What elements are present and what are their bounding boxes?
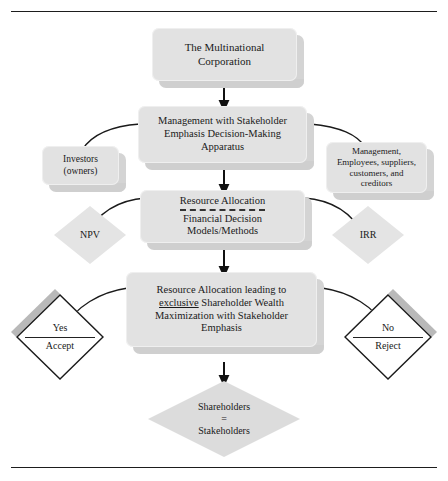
node-resource-allocation: Resource Allocation Financial Decision M…	[140, 190, 312, 250]
corporation-line-2: Corporation	[198, 55, 251, 68]
wealth-line-4: Emphasis	[201, 322, 242, 335]
frame-rule-bottom	[11, 467, 437, 468]
wealth-line-2-rest: Shareholder Wealth	[199, 297, 284, 308]
management-line-1: Management with Stakeholder	[158, 115, 287, 128]
investors-line-1: Investors	[63, 154, 98, 166]
stakeholders-group-line-2: Employees, suppliers,	[337, 157, 416, 168]
node-label: Investors (owners)	[42, 146, 119, 185]
accept-label: Yes Accept	[16, 294, 104, 380]
node-label: Resource Allocation Financial Decision M…	[140, 190, 305, 243]
node-accept-decision: Yes Accept	[16, 294, 104, 380]
shareholders-line-3: Stakeholders	[198, 425, 250, 437]
investors-line-2: (owners)	[64, 166, 98, 178]
node-npv: NPV	[54, 206, 126, 264]
accept-line-1: Yes	[53, 322, 68, 334]
wealth-line-2: exclusive Shareholder Wealth	[159, 297, 284, 310]
node-irr: IRR	[332, 206, 404, 264]
frame-rule-top	[11, 11, 437, 12]
shareholders-line-1: Shareholders	[198, 401, 250, 413]
node-stakeholders-group: Management, Employees, suppliers, custom…	[326, 142, 434, 200]
node-wealth-maximization: Resource Allocation leading to exclusive…	[126, 272, 324, 354]
node-multinational-corporation: The Multinational Corporation	[152, 28, 304, 88]
npv-label: NPV	[54, 206, 126, 264]
node-label: The Multinational Corporation	[152, 28, 297, 81]
node-investors: Investors (owners)	[42, 146, 126, 192]
management-line-3: Apparatus	[201, 141, 244, 154]
node-reject-decision: No Reject	[344, 294, 432, 380]
wealth-exclusive-emphasis: exclusive	[159, 297, 199, 308]
node-shareholders-equal-stakeholders: Shareholders = Stakeholders	[148, 381, 300, 457]
accept-line-2: Accept	[46, 340, 74, 352]
reject-line-2: Reject	[375, 340, 401, 352]
flowchart-figure: The Multinational Corporation Management…	[0, 0, 448, 481]
node-label: Management with Stakeholder Emphasis Dec…	[138, 106, 307, 163]
resource-allocation-line-3: Models/Methods	[187, 225, 258, 238]
corporation-line-1: The Multinational	[185, 41, 265, 54]
stakeholders-group-line-1: Management,	[352, 146, 401, 157]
reject-line-1: No	[382, 322, 394, 334]
reject-label: No Reject	[344, 294, 432, 380]
wealth-line-1: Resource Allocation leading to	[157, 284, 287, 297]
resource-allocation-line-2: Financial Decision	[183, 213, 262, 226]
resource-allocation-heading: Resource Allocation	[180, 195, 265, 211]
shareholders-line-2: =	[221, 413, 227, 425]
node-label: Management, Employees, suppliers, custom…	[326, 142, 427, 193]
irr-label: IRR	[332, 206, 404, 264]
stakeholders-group-line-3: customers, and	[350, 168, 404, 179]
shareholders-equal-label: Shareholders = Stakeholders	[148, 381, 300, 457]
wealth-line-3: Maximization with Stakeholder	[155, 310, 288, 323]
management-line-2: Emphasis Decision-Making	[164, 128, 281, 141]
node-label: Resource Allocation leading to exclusive…	[126, 272, 317, 347]
stakeholders-group-line-4: creditors	[361, 178, 393, 189]
node-management-apparatus: Management with Stakeholder Emphasis Dec…	[138, 106, 314, 170]
